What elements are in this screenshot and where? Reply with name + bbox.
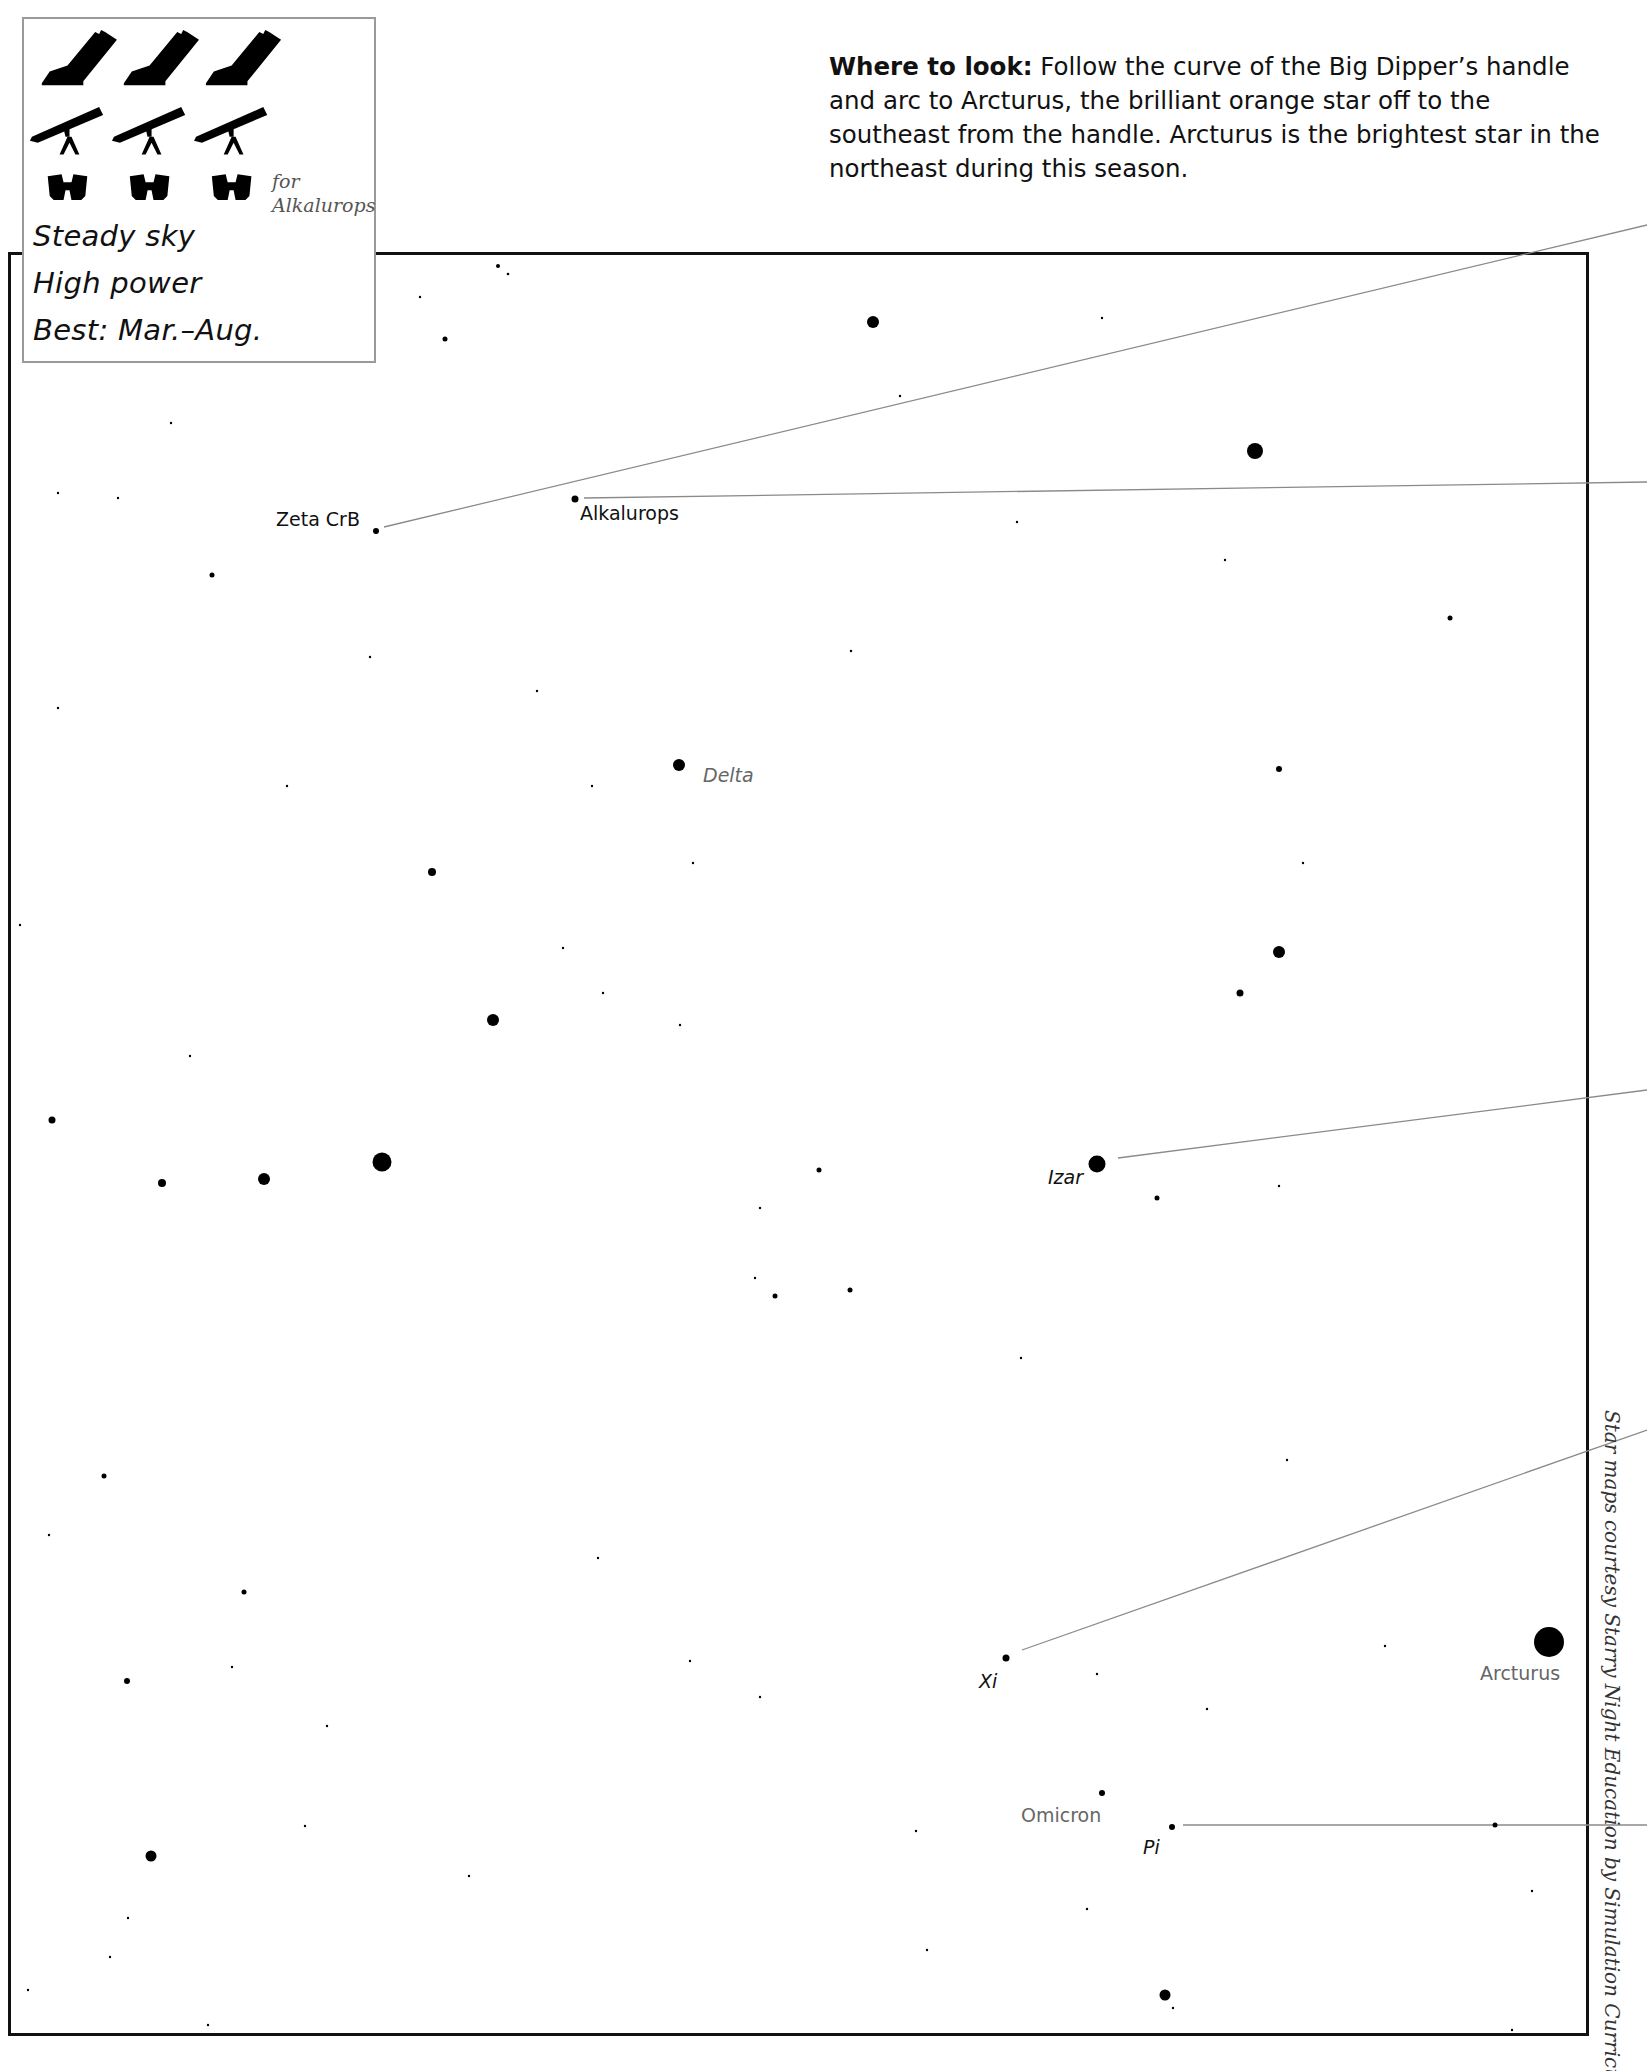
star [1493,1823,1498,1828]
label-pi: Pi [1143,1836,1160,1858]
equipment-legend: for Alkalurops Steady sky High power Bes… [22,17,376,363]
star [124,1678,130,1684]
star-izar [1089,1156,1106,1173]
star-delta [673,759,685,771]
star [373,1153,392,1172]
star [817,1168,822,1173]
star [146,1851,157,1862]
binoculars-icon [212,174,252,200]
dobsonian-telescope-icon [124,30,199,85]
binoculars-icon [130,174,170,200]
star [848,1288,853,1293]
binoculars-icon [48,174,88,200]
label-delta: Delta [703,764,754,786]
star [1160,1990,1171,2001]
label-alkalurops: Alkalurops [580,502,679,524]
star [428,868,436,876]
stars [19,264,1564,2031]
label-izar: Izar [1048,1166,1083,1188]
condition-power: High power [33,266,202,300]
star [1155,1196,1160,1201]
star [242,1590,247,1595]
binocular-target-note: for Alkalurops [272,169,375,217]
refractor-telescope-icon [194,107,267,154]
pointer-line-xi [1022,1430,1647,1650]
refractor-telescope-icon [30,107,103,154]
pointer-line-zeta-crb [384,225,1647,527]
star [487,1014,499,1026]
condition-best-months: Best: Mar.–Aug. [33,313,262,347]
star [158,1179,166,1187]
credit-text: Star maps courtesy Starry Night Educatio… [1596,1410,1626,2040]
credit-label: Star maps courtesy Starry Night Educatio… [1600,1410,1624,1440]
condition-sky: Steady sky [33,219,195,253]
star [1247,443,1263,459]
pointer-line-izar [1118,1090,1647,1158]
star [443,337,448,342]
refractor-telescope-icon [112,107,185,154]
star [496,264,500,268]
star-xi [1003,1655,1010,1662]
label-omicron: Omicron [1021,1804,1101,1826]
pointer-lines [384,225,1647,1825]
label-xi: Xi [979,1670,997,1692]
star [773,1294,778,1299]
star [1273,946,1285,958]
star [1237,990,1244,997]
dobsonian-telescope-icon [206,30,281,85]
label-zeta-crb: Zeta CrB [276,508,360,530]
dobsonian-telescope-icon [42,30,117,85]
star [258,1173,270,1185]
star [102,1474,107,1479]
star [1276,766,1282,772]
star-arcturus [1534,1627,1564,1657]
star [210,573,215,578]
note-for: for [272,169,375,193]
star [49,1117,56,1124]
star [867,316,879,328]
star-zeta-crb [373,528,379,534]
note-target: Alkalurops [272,193,375,217]
pointer-line-alkalurops [584,482,1647,498]
star [1448,616,1453,621]
star-alkalurops [572,496,579,503]
star-omicron [1099,1790,1105,1796]
star-pi [1169,1824,1175,1830]
label-arcturus: Arcturus [1480,1662,1560,1684]
